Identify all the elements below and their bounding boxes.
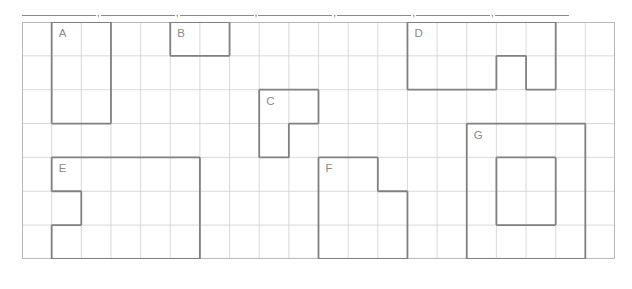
answer-blank-group: , [416, 6, 495, 16]
grid-svg: ABCDEFG [22, 22, 615, 259]
shape-e[interactable]: E [52, 157, 200, 259]
answer-separator: , [411, 8, 416, 17]
answer-blank-6[interactable] [416, 6, 490, 16]
answer-separator: , [175, 8, 180, 17]
answer-separator: , [490, 8, 495, 17]
answer-blank-group: , [22, 6, 101, 16]
answer-blank-group: , [337, 6, 416, 16]
answer-blank-5[interactable] [337, 6, 411, 16]
shape-label: D [414, 27, 422, 39]
answer-blank-2[interactable] [101, 6, 175, 16]
shape-label: A [59, 27, 67, 39]
answer-separator: , [254, 8, 259, 17]
shape-label: E [59, 162, 67, 174]
answer-blanks-row: ,,,,,, [22, 0, 618, 16]
answer-separator: , [96, 8, 101, 17]
answer-separator: , [332, 8, 337, 17]
answer-blank-4[interactable] [258, 6, 332, 16]
shape-outline [52, 157, 200, 259]
shape-f[interactable]: F [319, 157, 408, 259]
answer-blank-group: , [180, 6, 259, 16]
answer-blank-group: , [101, 6, 180, 16]
shape-label: C [266, 95, 274, 107]
puzzle-grid: ABCDEFG [22, 22, 615, 259]
answer-blank-7[interactable] [495, 6, 569, 16]
answer-blank-group: , [258, 6, 337, 16]
shape-label: B [177, 27, 185, 39]
shape-label: F [325, 162, 332, 174]
answer-blank-1[interactable] [22, 6, 96, 16]
answer-blank-group [495, 6, 569, 16]
answer-blank-3[interactable] [180, 6, 254, 16]
shape-label: G [474, 129, 483, 141]
